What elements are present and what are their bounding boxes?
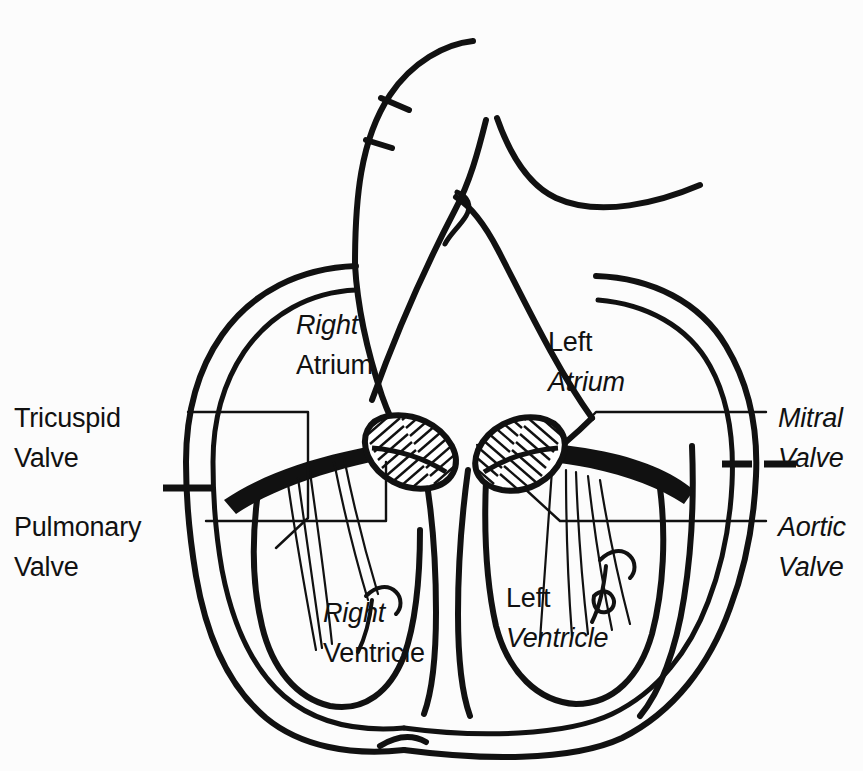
interventricular-septum-right <box>458 470 470 716</box>
label-left-ventricle: Left Ventricle <box>506 578 608 658</box>
heart-diagram-figure: Tricuspid Valve Pulmonary Valve Mitral V… <box>0 0 863 771</box>
label-pulmonary-valve-line1: Pulmonary <box>14 512 141 542</box>
label-mitral-valve-line2: Valve <box>778 443 844 473</box>
label-right-ventricle: Right Ventricle <box>323 593 425 673</box>
label-mitral-valve: Mitral Valve <box>778 398 844 478</box>
label-left-ventricle-line2: Ventricle <box>506 623 608 653</box>
label-left-ventricle-line1: Left <box>506 583 550 613</box>
mitral-leaflet-open <box>452 394 566 508</box>
label-mitral-valve-line1: Mitral <box>778 403 843 433</box>
aorta-outer-wall <box>497 118 700 207</box>
leader-mitral <box>566 412 766 444</box>
aorta-ascending-wall <box>372 120 486 400</box>
interventricular-septum-left <box>424 466 436 714</box>
label-left-atrium-line2: Atrium <box>548 367 625 397</box>
label-left-atrium: Left Atrium <box>548 322 625 402</box>
label-right-ventricle-line2: Ventricle <box>323 638 425 668</box>
label-pulmonary-valve: Pulmonary Valve <box>14 507 141 587</box>
label-right-ventricle-line1: Right <box>323 598 385 628</box>
av-valve-annulus-group <box>224 440 694 514</box>
ventricle-cavities-group <box>254 446 693 716</box>
label-tricuspid-valve-line2: Valve <box>14 443 79 473</box>
tricuspid-leaflet-open <box>362 394 476 508</box>
label-left-atrium-line1: Left <box>548 327 592 357</box>
great-vessels-group <box>355 41 700 466</box>
label-right-atrium-line2: Atrium <box>296 350 373 380</box>
myocardium-outline-group <box>186 266 756 757</box>
label-pulmonary-valve-line2: Valve <box>14 552 79 582</box>
label-tricuspid-valve-line1: Tricuspid <box>14 403 121 433</box>
apex-notch <box>380 737 426 746</box>
label-right-atrium: Right Atrium <box>296 305 373 385</box>
chordae-rv-4 <box>334 462 368 600</box>
label-aortic-valve-line2: Valve <box>778 552 844 582</box>
heart-anatomy-illustration <box>0 0 863 771</box>
label-right-atrium-line1: Right <box>296 310 358 340</box>
label-tricuspid-valve: Tricuspid Valve <box>14 398 121 478</box>
label-aortic-valve-line1: Aortic <box>778 512 846 542</box>
label-aortic-valve: Aortic Valve <box>778 507 846 587</box>
